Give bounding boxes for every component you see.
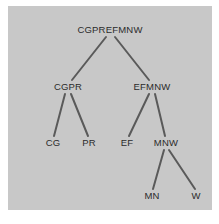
edges-group [54,37,195,189]
tree-diagram-figure: CGPREFMNWCGPREFMNWCGPREFMNWMNW [0,0,219,224]
tree-node-efmnw: EFMNW [134,82,171,92]
tree-edge [72,37,106,80]
tree-node-mnw: MNW [154,138,178,148]
tree-edge [129,94,149,136]
tree-edge [115,37,149,80]
tree-node-root: CGPREFMNW [77,25,142,35]
tree-edge [155,94,165,136]
tree-node-w: W [191,191,200,201]
tree-node-mn: MN [144,191,159,201]
tree-node-pr: PR [82,138,96,148]
tree-node-ef: EF [121,138,134,148]
tree-node-cgpr: CGPR [54,82,82,92]
tree-node-cg: CG [46,138,61,148]
tree-edge [71,94,88,136]
tree-edge [169,150,195,189]
tree-edge [153,150,164,189]
tree-edge [54,94,65,136]
